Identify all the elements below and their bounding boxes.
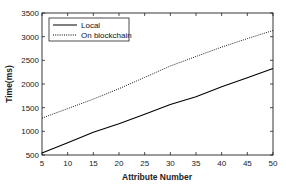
y-tick-label: 1500 <box>21 104 39 113</box>
x-tick-label: 45 <box>243 159 252 168</box>
x-tick-label: 5 <box>40 159 45 168</box>
legend-entry-local: Local <box>81 21 100 30</box>
x-tick-label: 50 <box>269 159 278 168</box>
y-tick-label: 500 <box>26 151 40 160</box>
y-tick-label: 1000 <box>21 127 39 136</box>
series-line-on-blockchain <box>42 31 273 119</box>
legend-entry-on-blockchain: On blockchain <box>81 31 132 40</box>
x-axis-label: Attribute Number <box>122 172 193 182</box>
x-tick-label: 25 <box>140 159 149 168</box>
x-tick-label: 30 <box>166 159 175 168</box>
line-chart: 500100015002000250030003500 510152025303… <box>0 0 286 185</box>
x-tick-label: 15 <box>89 159 98 168</box>
x-tick-label: 40 <box>217 159 226 168</box>
y-tick-label: 2500 <box>21 56 39 65</box>
x-tick-label: 10 <box>63 159 72 168</box>
y-tick-label: 3000 <box>21 33 39 42</box>
x-tick-label: 20 <box>115 159 124 168</box>
x-tick-label: 35 <box>192 159 201 168</box>
legend: Local On blockchain <box>49 18 132 41</box>
y-tick-label: 2000 <box>21 80 39 89</box>
series-line-local <box>42 68 273 153</box>
y-tick-label: 3500 <box>21 9 39 18</box>
y-axis-label: Time(ms) <box>4 65 14 103</box>
